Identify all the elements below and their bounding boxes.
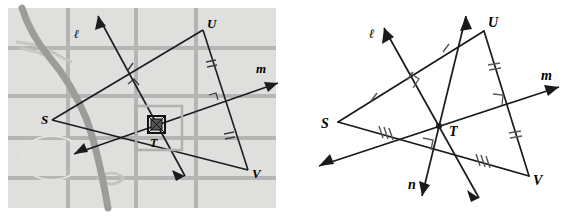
map-label-v: V (252, 166, 262, 181)
geo-label-s: S (321, 116, 329, 131)
geo-label-u: U (488, 15, 499, 30)
geo-label-m: m (541, 68, 552, 83)
point-t-marker (148, 116, 165, 133)
geo-label-t: T (449, 124, 459, 139)
geometry-svg: ℓ U m S T n V (283, 0, 566, 216)
map-label-t: T (150, 136, 158, 150)
geo-label-l: ℓ (369, 26, 375, 41)
map-label-s: S (41, 112, 48, 127)
point-t (436, 123, 442, 129)
map-svg: ℓ U m S T V (0, 0, 283, 216)
geometry-figure: ℓ U m S T V (0, 0, 566, 216)
map-label-l: ℓ (74, 27, 79, 41)
map-label-m: m (256, 61, 266, 76)
map-panel: ℓ U m S T V (0, 0, 283, 216)
map-label-u: U (207, 16, 217, 31)
geo-label-n: n (408, 177, 416, 192)
geometry-panel: ℓ U m S T n V (283, 0, 566, 216)
